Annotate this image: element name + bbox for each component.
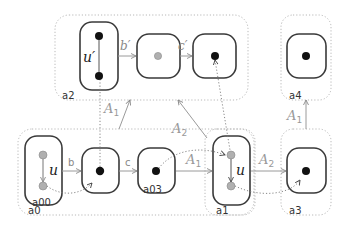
diagram-canvas: u′ b′ c′ u b c u A1 A2 A1 A2 A1 a2 a4 a0… xyxy=(0,0,346,226)
label-A2-mid: A2 xyxy=(258,152,274,169)
dot-a00-bottom xyxy=(39,182,47,190)
dot-a1-bottom xyxy=(227,182,235,190)
label-A1-upper: A1 xyxy=(103,101,119,118)
label-b: b xyxy=(68,157,74,168)
label-c-prime: c′ xyxy=(178,39,188,53)
group-label-a4: a4 xyxy=(289,90,302,101)
label-A1-right: A1 xyxy=(286,108,302,125)
arrow-A1-upper xyxy=(119,100,130,129)
dot-u-prime-bottom xyxy=(95,72,103,80)
label-A2-upper: A2 xyxy=(171,121,187,138)
label-u-prime: u′ xyxy=(83,49,96,65)
dot-a4 xyxy=(302,52,310,60)
dot-b-target xyxy=(96,167,104,175)
label-c: c xyxy=(125,157,131,168)
group-label-a1: a1 xyxy=(216,205,229,216)
dot-a1-top xyxy=(227,151,235,159)
group-label-a2: a2 xyxy=(62,90,75,101)
label-u-bottom: u xyxy=(49,162,58,178)
dot-b-prime-target xyxy=(154,52,161,59)
label-A1-mid: A1 xyxy=(185,152,201,169)
node-label-a00: a00 xyxy=(32,197,51,208)
dot-a03 xyxy=(152,167,160,175)
label-b-prime: b′ xyxy=(120,39,131,53)
dot-c-prime-target xyxy=(211,52,219,60)
node-label-a03: a03 xyxy=(143,184,162,195)
dot-u-prime-top xyxy=(95,32,103,40)
label-u-a1: u xyxy=(236,162,245,178)
group-label-a3: a3 xyxy=(289,205,302,216)
dot-a00-top xyxy=(39,151,47,159)
dot-a3 xyxy=(302,167,310,175)
